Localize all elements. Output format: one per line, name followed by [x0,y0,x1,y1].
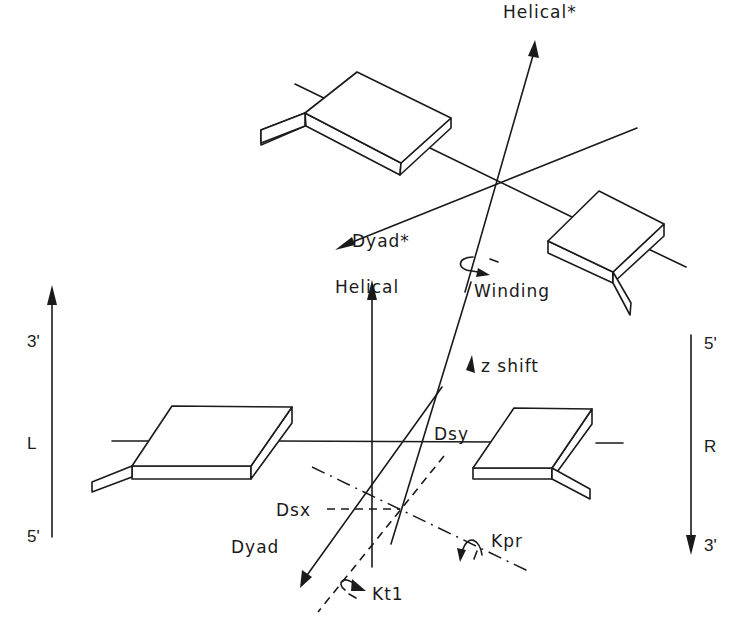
left-strand-arrowhead-icon [47,285,57,305]
dyad-axis [305,387,442,578]
upper-left-base-slab [261,72,451,175]
helical-star-label: Helical* [503,2,577,22]
lower-base-pair: Helical z shift Dsy Dsx Dyad Kpr Kt1 [92,277,623,612]
right-strand-name-label: R [704,437,716,456]
right-strand-direction: 5' R 3' [686,334,717,555]
winding-label: Winding [474,281,550,301]
lower-right-base-slab [473,408,592,499]
dsy-label: Dsy [434,424,469,444]
base-pair-geometry-diagram: Helical* Dyad* Winding [0,0,748,628]
helical-star-arrowhead-icon [528,40,539,58]
kpr-label: Kpr [491,531,523,551]
left-strand-direction: 3' L 5' [27,285,57,546]
right-strand-top-label: 5' [704,334,717,353]
ktl-label: Kt1 [372,584,404,604]
left-strand-bottom-label: 5' [27,527,40,546]
dyad-star-label: Dyad* [352,231,410,251]
right-strand-bottom-label: 3' [704,536,717,555]
ktl-rotation-icon [341,579,366,598]
dyad-arrowhead-icon [300,570,312,588]
z-shift-axis [391,282,471,544]
helical-star-axis [465,52,534,292]
dsx-label: Dsx [276,500,311,520]
upper-right-base-slab [548,191,664,315]
right-strand-arrowhead-icon [686,535,696,555]
upper-base-pair: Helical* Dyad* Winding [261,2,686,315]
z-shift-label: z shift [481,356,539,376]
z-shift-arrowhead-icon [466,355,475,373]
left-strand-top-label: 3' [27,332,40,351]
left-strand-name-label: L [27,434,36,453]
winding-rotation-icon [460,257,498,277]
lower-left-base-slab [92,406,292,492]
dyad-label: Dyad [231,537,279,557]
kpr-dash-dot-axis [312,467,528,571]
helical-label: Helical [335,277,399,297]
